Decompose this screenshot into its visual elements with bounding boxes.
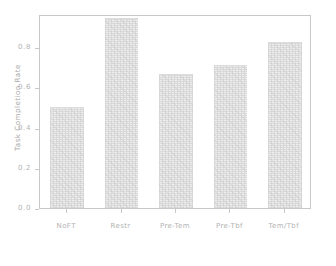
y-tick-mark [35,209,39,210]
x-tick-mark [284,209,285,213]
x-tick-mark [175,209,176,213]
bar-noft [50,107,83,208]
y-axis-title: Task Completion Rate [11,3,25,212]
y-tick-label: 0.0 [0,204,39,214]
y-tick-label: 0.8 [0,43,39,53]
x-tick-label: Pre-Tem [160,222,190,233]
bar-tem-tbf [268,42,301,208]
x-tick-mark [229,209,230,213]
y-tick-mark [35,129,39,130]
y-tick-label: 0.6 [0,83,39,93]
bar-pre-tem [159,74,192,208]
x-tick-label: NoFT [57,222,76,233]
x-tick-mark [66,209,67,213]
bars-layer [40,16,310,208]
y-tick-label: 0.2 [0,164,39,174]
y-tick-mark [35,169,39,170]
y-tick-mark [35,48,39,49]
bar-restr [105,18,138,208]
x-tick-mark [121,209,122,213]
x-tick-label: Tem/Tbf [269,222,300,233]
x-tick-label: Restr [111,222,131,233]
y-tick-mark [35,88,39,89]
bar-pre-tbf [214,65,247,208]
x-tick-label: Pre-Tbf [216,222,243,233]
bar-chart-figure: Task Completion Rate 0.00.20.40.60.8 NoF… [0,0,336,266]
plot-area [39,15,311,209]
y-tick-label: 0.4 [0,124,39,134]
